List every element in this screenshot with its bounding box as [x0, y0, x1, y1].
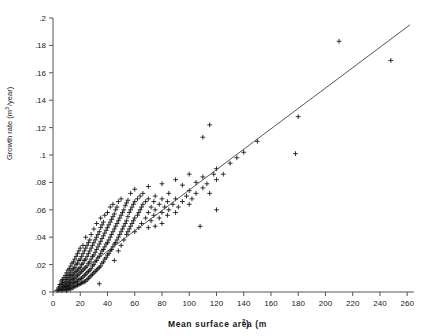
data-point-plus-marker — [293, 151, 298, 156]
data-point-plus-marker — [157, 202, 162, 207]
regression-line — [53, 25, 410, 292]
data-point-plus-marker — [190, 196, 195, 201]
data-point-plus-marker — [173, 177, 178, 182]
data-point-plus-marker — [94, 221, 99, 226]
x-tick-label: 180 — [292, 299, 306, 308]
data-point-plus-marker — [149, 205, 154, 210]
data-point-plus-marker — [153, 207, 158, 212]
y-tick-label: 0 — [42, 288, 47, 297]
y-tick-label: .06 — [35, 206, 47, 215]
data-point-plus-marker — [146, 196, 151, 201]
data-point-plus-marker — [296, 114, 301, 119]
scatter-plot-figure: 0.02.04.06.08.1.12.14.16.18.2 0204060801… — [0, 0, 431, 336]
data-point-plus-marker — [135, 196, 140, 201]
x-tick-label: 260 — [401, 299, 415, 308]
x-axis-title: Mean surface area (m 2 ) — [168, 318, 267, 329]
data-point-plus-marker — [157, 216, 162, 221]
data-points-group — [55, 39, 394, 293]
data-point-plus-marker — [153, 194, 158, 199]
data-point-plus-marker — [111, 202, 116, 207]
y-tick-label: .16 — [35, 69, 47, 78]
data-point-plus-marker — [173, 210, 178, 215]
data-point-plus-marker — [83, 235, 88, 240]
x-tick-label: 100 — [183, 299, 197, 308]
x-tick-label: 40 — [103, 299, 112, 308]
x-axis-title-base: Mean surface area (m — [168, 319, 267, 329]
data-point-plus-marker — [187, 202, 192, 207]
data-point-plus-marker — [116, 249, 121, 254]
data-point-plus-marker — [205, 181, 210, 186]
data-point-plus-marker — [337, 39, 342, 44]
data-point-plus-marker — [119, 243, 124, 248]
data-point-plus-marker — [119, 196, 124, 201]
data-point-plus-marker — [255, 139, 260, 144]
data-point-plus-marker — [160, 221, 165, 226]
data-point-plus-marker — [105, 210, 110, 215]
x-tick-label: 200 — [319, 299, 333, 308]
data-point-plus-marker — [141, 191, 146, 196]
data-point-plus-marker — [184, 194, 189, 199]
data-point-plus-marker — [97, 281, 102, 286]
data-point-plus-marker — [146, 225, 151, 230]
data-point-plus-marker — [388, 58, 393, 63]
data-point-plus-marker — [200, 135, 205, 140]
data-point-plus-marker — [207, 191, 212, 196]
x-tick-label: 140 — [237, 299, 251, 308]
data-point-plus-marker — [228, 161, 233, 166]
x-axis-title-tail: ) — [246, 319, 249, 329]
data-point-plus-marker — [126, 214, 131, 219]
x-tick-label: 80 — [158, 299, 167, 308]
y-tick-label: .2 — [39, 14, 46, 23]
y-axis-title-tail: /year) — [5, 86, 14, 106]
y-tick-label: .1 — [39, 151, 46, 160]
y-tick-label: .02 — [35, 261, 47, 270]
x-tick-label: 160 — [264, 299, 278, 308]
x-tick-label: 20 — [76, 299, 85, 308]
data-point-plus-marker — [108, 205, 113, 210]
data-point-plus-marker — [160, 181, 165, 186]
data-point-plus-marker — [81, 243, 86, 248]
data-point-plus-marker — [143, 216, 148, 221]
data-point-plus-marker — [176, 205, 181, 210]
x-tick-label: 60 — [130, 299, 139, 308]
data-point-plus-marker — [187, 172, 192, 177]
data-point-plus-marker — [165, 199, 170, 204]
data-point-plus-marker — [180, 199, 185, 204]
data-point-plus-marker — [200, 185, 205, 190]
data-point-plus-marker — [112, 258, 117, 263]
data-point-plus-marker — [194, 191, 199, 196]
data-point-plus-marker — [166, 207, 171, 212]
data-point-plus-marker — [214, 177, 219, 182]
x-tick-label: 240 — [373, 299, 387, 308]
data-point-plus-marker — [198, 224, 203, 229]
data-point-plus-marker — [160, 196, 165, 201]
y-tick-label: .12 — [35, 124, 47, 133]
data-point-plus-marker — [151, 199, 156, 204]
data-point-plus-marker — [146, 210, 151, 215]
axes — [53, 18, 414, 292]
data-point-plus-marker — [89, 232, 94, 237]
data-point-plus-marker — [116, 199, 121, 204]
data-point-plus-marker — [221, 172, 226, 177]
data-point-plus-marker — [214, 207, 219, 212]
x-axis-ticks: 020406080100120140160180200220240260 — [51, 292, 415, 308]
data-point-plus-marker — [146, 184, 151, 189]
y-tick-label: .14 — [35, 96, 47, 105]
data-point-plus-marker — [207, 122, 212, 127]
y-tick-label: .04 — [35, 233, 47, 242]
data-point-plus-marker — [143, 199, 148, 204]
data-point-plus-marker — [165, 213, 170, 218]
x-tick-label: 120 — [210, 299, 224, 308]
y-axis-title-superscript: 3 — [4, 107, 10, 110]
y-tick-label: .18 — [35, 41, 47, 50]
y-axis-title-base: Growth rate (m — [5, 110, 14, 160]
y-tick-label: .08 — [35, 178, 47, 187]
y-axis-title: Growth rate (m 3 /year) — [4, 86, 14, 160]
data-point-plus-marker — [153, 224, 158, 229]
data-point-plus-marker — [180, 183, 185, 188]
x-tick-label: 220 — [346, 299, 360, 308]
data-point-plus-marker — [138, 194, 143, 199]
data-point-plus-marker — [98, 216, 103, 221]
y-axis-ticks: 0.02.04.06.08.1.12.14.16.18.2 — [35, 14, 53, 297]
data-point-plus-marker — [128, 191, 133, 196]
